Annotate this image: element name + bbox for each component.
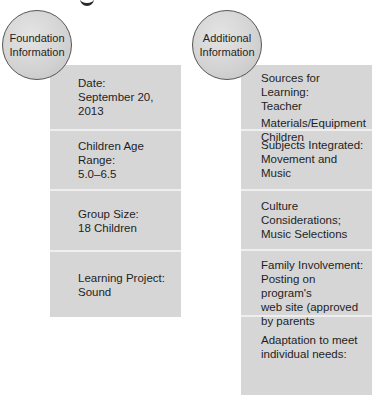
circle-title-line2: Information: [199, 45, 254, 59]
cell-line: individual needs:: [261, 347, 366, 361]
additional-cell-subjects: Subjects Integrated: Movement and Music: [241, 131, 372, 191]
cell-line: Teacher: [261, 99, 366, 113]
circle-title-line1: Foundation: [9, 31, 64, 45]
foundation-cell-age-range: Children Age Range: 5.0–6.5: [50, 131, 181, 191]
cell-label: Group Size:: [78, 207, 175, 221]
cropped-title-glyph: [80, 0, 94, 6]
cell-label: Learning Project:: [78, 271, 175, 285]
additional-cell-culture: Culture Considerations; Music Selections: [241, 191, 372, 251]
foundation-information-list: Date: September 20, 2013 Children Age Ra…: [50, 65, 181, 317]
cell-line: Posting on program's: [261, 272, 366, 300]
cell-value: September 20, 2013: [78, 90, 175, 118]
cell-label: Children Age Range:: [78, 139, 175, 167]
cell-line: Music: [261, 166, 366, 180]
additional-information-list: Sources for Learning: Teacher Materials/…: [241, 65, 372, 395]
cell-line: Music Selections: [261, 227, 366, 241]
foundation-cell-learning-project: Learning Project: Sound: [50, 252, 181, 317]
additional-cell-family: Family Involvement: Posting on program's…: [241, 251, 372, 317]
cell-line: web site (approved: [261, 300, 366, 314]
foundation-cell-date: Date: September 20, 2013: [50, 65, 181, 131]
cell-line: Culture Considerations;: [261, 199, 366, 227]
foundation-information-circle: Foundation Information: [2, 10, 72, 80]
foundation-cell-group-size: Group Size: 18 Children: [50, 191, 181, 252]
cell-line: Adaptation to meet: [261, 333, 366, 347]
circle-title-line2: Information: [9, 45, 64, 59]
cell-value: 5.0–6.5: [78, 167, 175, 181]
cell-line: Family Involvement:: [261, 258, 366, 272]
cell-line: Materials/Equipment: [261, 116, 366, 130]
cell-line: by parents: [261, 314, 366, 328]
cell-line: Movement and: [261, 152, 366, 166]
circle-title-line1: Additional: [203, 31, 251, 45]
additional-information-circle: Additional Information: [192, 10, 262, 80]
additional-cell-sources: Sources for Learning: Teacher Materials/…: [241, 65, 372, 131]
cell-line: Subjects Integrated:: [261, 138, 366, 152]
cell-value: 18 Children: [78, 221, 175, 235]
cell-label: Date:: [78, 76, 175, 90]
additional-cell-adaptation: Adaptation to meet individual needs:: [241, 317, 372, 395]
cell-line: Sources for Learning:: [261, 71, 366, 99]
cell-value: Sound: [78, 285, 175, 299]
